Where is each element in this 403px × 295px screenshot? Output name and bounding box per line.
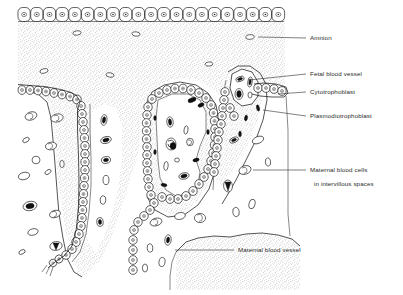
label-maternal-blood-cells-line2: in intervillous spaces (314, 180, 374, 187)
histology-figure: Amnion Fetal blood vessel Cytotrophoblas… (0, 0, 403, 295)
diagram-canvas: Amnion Fetal blood vessel Cytotrophoblas… (0, 0, 403, 295)
label-fetal-blood-vessel: Fetal blood vessel (310, 70, 362, 77)
maternal-blood-vessel (170, 233, 300, 290)
label-amnion: Amnion (310, 34, 332, 41)
label-maternal-blood-vessel: Maternal blood vessel (238, 246, 301, 253)
amnion-epithelium (18, 8, 285, 22)
label-maternal-blood-cells: Maternal blood cells (310, 166, 367, 173)
label-cytotrophoblast: Cytotrophoblast (310, 88, 355, 95)
label-plasmodiotrophoblast: Plasmodiotrophoblast (310, 112, 372, 119)
